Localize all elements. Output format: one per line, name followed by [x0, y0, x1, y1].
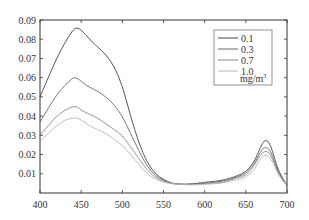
legend-item-label: 0.7 [241, 55, 254, 66]
series-line-1-0 [40, 118, 287, 185]
series-line-0-3 [40, 78, 287, 186]
y-tick-label: 0.01 [19, 168, 37, 179]
legend: 0.10.30.71.0 mg/m3 [214, 30, 272, 85]
y-tick-label: 0.07 [19, 53, 37, 64]
x-tick-label: 600 [197, 199, 212, 210]
legend-item-label: 0.3 [241, 44, 254, 55]
y-tick-label: 0.05 [19, 91, 37, 102]
y-tick-label: 0.02 [19, 149, 37, 160]
legend-item-label: 0.1 [241, 33, 254, 44]
legend-unit-superscript: 3 [263, 73, 266, 79]
y-tick-label: 0.09 [19, 15, 37, 26]
x-tick-label: 400 [33, 199, 48, 210]
legend-unit: mg/m3 [240, 73, 266, 84]
y-tick-label: 0.08 [19, 34, 37, 45]
x-tick-label: 650 [238, 199, 253, 210]
x-tick-label: 700 [280, 199, 295, 210]
y-tick-label: 0.06 [19, 72, 37, 83]
x-tick-label: 500 [115, 199, 130, 210]
y-tick-label: 0.04 [19, 111, 37, 122]
x-tick-label: 550 [156, 199, 171, 210]
line-chart: 0.010.020.030.040.050.060.070.080.09 400… [0, 0, 309, 220]
y-tick-label: 0.03 [19, 130, 37, 141]
x-tick-label: 450 [74, 199, 89, 210]
